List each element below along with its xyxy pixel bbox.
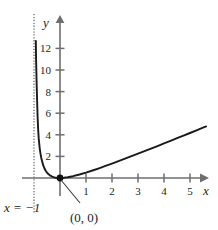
x-tick-label: 5 bbox=[187, 185, 193, 197]
y-tick-label: 10 bbox=[40, 64, 52, 76]
asymptote-label: x = −1 bbox=[3, 200, 40, 215]
y-tick-label: 4 bbox=[46, 129, 52, 141]
y-axis-label: y bbox=[41, 15, 49, 30]
origin-point-marker bbox=[57, 175, 64, 182]
y-tick-label: 8 bbox=[46, 86, 52, 98]
origin-label: (0, 0) bbox=[70, 210, 98, 225]
x-tick-label: 3 bbox=[135, 185, 141, 197]
graph-figure: 12345 24681012 y x x = −1 (0, 0) bbox=[0, 0, 218, 230]
x-tick-label: 2 bbox=[109, 185, 115, 197]
x-tick-label: 1 bbox=[83, 185, 89, 197]
y-tick-label: 6 bbox=[46, 107, 52, 119]
function-plot: 12345 24681012 y x x = −1 (0, 0) bbox=[0, 0, 218, 230]
y-tick-label: 2 bbox=[46, 150, 52, 162]
y-tick-label: 12 bbox=[40, 42, 51, 54]
x-tick-label: 4 bbox=[161, 185, 167, 197]
x-axis-label: x bbox=[202, 183, 209, 198]
